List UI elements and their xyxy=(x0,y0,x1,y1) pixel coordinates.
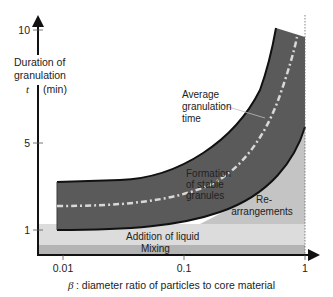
y-axis-title-line1: Duration of xyxy=(14,56,65,68)
addition-label: Addition of liquid xyxy=(126,231,199,242)
average-label-line2: granulation xyxy=(182,101,231,112)
average-label-line1: Average xyxy=(182,89,220,100)
y-axis-title-line2: granulation xyxy=(14,69,66,81)
formation-label-line1: Formation xyxy=(186,168,231,179)
formation-label-line2: of stable xyxy=(186,179,224,190)
granulation-diagram: 10 5 1 Duration of granulation t (min) 0… xyxy=(0,0,333,297)
y-axis-unit: (min) xyxy=(43,83,67,95)
x-axis-title: : diameter ratio of particles to core ma… xyxy=(76,279,275,291)
average-label-line3: time xyxy=(182,113,201,124)
mixing-label: Mixing xyxy=(141,243,170,254)
x-axis-symbol: β xyxy=(67,279,74,291)
x-tick-label-1: 1 xyxy=(302,262,308,274)
mixing-region xyxy=(38,245,305,255)
rearrangements-label-line1: Re- xyxy=(256,194,272,205)
x-tick-label-0.1: 0.1 xyxy=(177,262,192,274)
formation-label-line3: granules xyxy=(186,190,224,201)
x-tick-label-0.01: 0.01 xyxy=(53,262,74,274)
y-tick-label-10: 10 xyxy=(18,24,30,36)
rearrangements-label-line2: arrangements xyxy=(231,206,293,217)
y-tick-label-5: 5 xyxy=(24,137,30,149)
y-tick-label-1: 1 xyxy=(24,224,30,236)
